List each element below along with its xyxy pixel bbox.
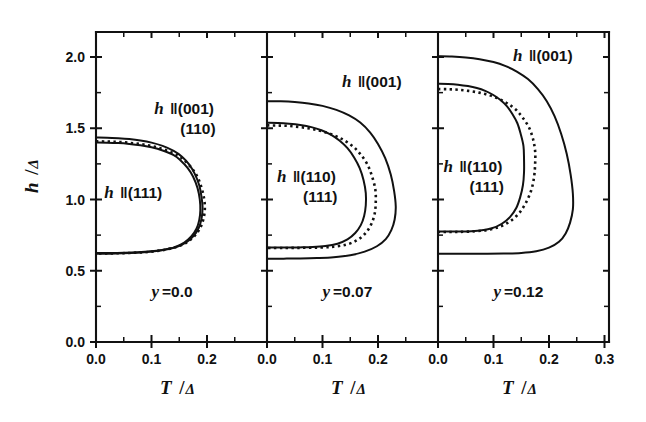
x-tick-label: 0.0 (257, 351, 277, 367)
panel-2-x-axis-title: T /Δ (331, 377, 366, 398)
y-tick-label: 2.0 (66, 49, 86, 65)
x-tick-label: 0.2 (539, 351, 559, 367)
curve-h-001- (438, 56, 573, 253)
label-111: h ‖(111) (104, 183, 162, 202)
panel-3-note: y=0.12 (492, 282, 544, 301)
label-110-111-line2: (111) (470, 178, 504, 195)
y-tick-label: 0.0 (66, 334, 86, 350)
label-110-111-line2: (111) (303, 188, 337, 205)
panel-3: 0.00.10.20.3h ‖(001)h ‖(110)(111)y=0.12T… (428, 32, 614, 398)
y-tick-label: 1.0 (66, 192, 86, 208)
panel-2: 0.00.10.2h ‖(001)h ‖(110)(111)y=0.07T /Δ (257, 32, 438, 398)
x-tick-label: 0.0 (428, 351, 448, 367)
y-tick-label: 1.5 (66, 120, 86, 136)
x-tick-label: 0.3 (595, 351, 615, 367)
y-axis-title: h /Δ (21, 159, 42, 193)
figure-root: 0.00.51.01.52.00.00.10.2h ‖(001)(110)h ‖… (0, 0, 646, 422)
panel-1-x-axis-title: T /Δ (160, 377, 195, 398)
label-001: h ‖(001) (513, 46, 573, 65)
label-001: h ‖(001) (342, 72, 402, 91)
x-tick-label: 0.1 (313, 351, 333, 367)
label-110-111: h ‖(110) (277, 167, 336, 186)
figure-canvas: 0.00.51.01.52.00.00.10.2h ‖(001)(110)h ‖… (0, 0, 646, 422)
curve-h-111- (267, 125, 376, 248)
label-110-111: h ‖(110) (444, 157, 503, 176)
y-tick-label: 0.5 (66, 263, 86, 279)
x-tick-label: 0.1 (142, 351, 162, 367)
x-tick-label: 0.2 (197, 351, 217, 367)
panel-2-note: y=0.07 (321, 282, 373, 301)
panel-1: 0.00.51.01.52.00.00.10.2h ‖(001)(110)h ‖… (66, 32, 267, 398)
panel-1-note: y=0.0 (150, 282, 193, 301)
panel-3-x-axis-title: T /Δ (502, 377, 537, 398)
x-tick-label: 0.2 (368, 351, 388, 367)
label-001-110: h ‖(001) (154, 99, 214, 118)
label-001-110-line2: (110) (180, 120, 215, 137)
x-tick-label: 0.1 (484, 351, 504, 367)
x-tick-label: 0.0 (86, 351, 106, 367)
